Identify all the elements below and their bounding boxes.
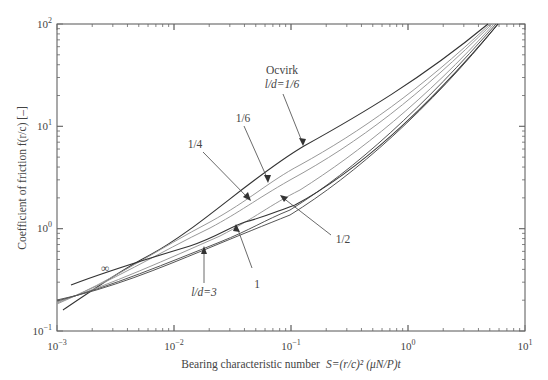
x-tick-label: 10−3	[47, 338, 67, 352]
y-tick-label: 10−1	[32, 323, 52, 337]
arrow-1-4	[203, 152, 249, 199]
y-tick-labels: 10−1 100 101 102	[32, 16, 52, 337]
label-1-4: 1/4	[188, 138, 203, 150]
x-tick-label: 10−1	[281, 338, 301, 352]
arrow-1-2	[282, 197, 331, 235]
x-tick-label: 100	[401, 338, 416, 352]
label-ocvirk: Ocvirk	[266, 64, 298, 76]
arrowhead-icon	[299, 138, 306, 146]
label-ld-3: l/d=3	[191, 286, 217, 298]
label-1: 1	[254, 278, 260, 290]
label-1-2: 1/2	[336, 233, 351, 245]
label-ocvirk-ld: l/d=1/6	[265, 78, 300, 90]
arrowhead-icon	[264, 175, 271, 183]
label-1-6: 1/6	[236, 112, 251, 124]
x-tick-label: 101	[518, 338, 533, 352]
arrow-1-6	[244, 126, 268, 180]
x-axis-title: Bearing characteristic numberS=(r/c)² (μ…	[181, 358, 401, 371]
label-infinity: ∞	[101, 262, 109, 274]
x-tick-label: 10−2	[164, 338, 184, 352]
y-axis-title: Coefficient of friction f(r/c) [–]	[16, 106, 29, 249]
x-tick-labels: 10−3 10−2 10−1 100 101	[47, 338, 532, 352]
friction-chart: 10−3 10−2 10−1 100 101 10−1 100 101 102 …	[0, 0, 548, 380]
y-tick-label: 102	[37, 16, 52, 30]
arrow-ocvirk	[283, 94, 303, 144]
y-tick-label: 100	[37, 220, 52, 234]
y-tick-label: 101	[37, 118, 52, 132]
